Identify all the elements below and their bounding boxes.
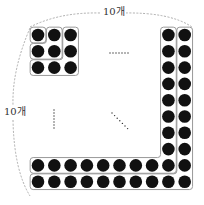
dot xyxy=(64,159,77,172)
left-dashed-arc xyxy=(13,28,30,105)
dot xyxy=(32,159,45,172)
dot xyxy=(162,110,175,123)
dot xyxy=(178,29,191,42)
dot xyxy=(130,159,143,172)
dot xyxy=(178,143,191,156)
dot xyxy=(81,159,94,172)
dot xyxy=(113,159,126,172)
dot xyxy=(113,175,126,188)
dot xyxy=(81,175,94,188)
dot xyxy=(162,45,175,58)
left-count-label: 10개 xyxy=(3,106,27,117)
dot xyxy=(162,159,175,172)
dot xyxy=(97,175,110,188)
dot xyxy=(162,61,175,74)
top-dashed-arc xyxy=(30,13,100,27)
dot xyxy=(146,159,159,172)
vertical-ellipsis xyxy=(53,109,54,128)
dot xyxy=(48,61,61,74)
dot xyxy=(48,29,61,42)
dot xyxy=(32,175,45,188)
dot xyxy=(162,78,175,91)
dot xyxy=(130,175,143,188)
dot xyxy=(97,159,110,172)
top-dashed-arc-right xyxy=(122,13,192,27)
dot xyxy=(178,127,191,140)
dot xyxy=(178,175,191,188)
dot xyxy=(64,175,77,188)
dot xyxy=(32,45,45,58)
dot xyxy=(32,29,45,42)
left-dashed-arc-bottom xyxy=(13,120,30,196)
dot xyxy=(48,45,61,58)
dot xyxy=(162,29,175,42)
dot xyxy=(48,159,61,172)
dot xyxy=(32,61,45,74)
dot xyxy=(64,29,77,42)
dot xyxy=(64,45,77,58)
top-count-label: 10개 xyxy=(102,6,126,17)
dot xyxy=(178,110,191,123)
diagonal-ellipsis xyxy=(111,112,128,129)
dot xyxy=(178,61,191,74)
dot xyxy=(48,175,61,188)
dot xyxy=(146,175,159,188)
dot xyxy=(162,143,175,156)
dot xyxy=(162,94,175,107)
dot xyxy=(162,127,175,140)
dot xyxy=(178,78,191,91)
horizontal-ellipsis xyxy=(109,52,128,53)
dot xyxy=(162,175,175,188)
dot xyxy=(178,45,191,58)
dot xyxy=(178,159,191,172)
dot xyxy=(178,94,191,107)
diagram-canvas xyxy=(0,0,204,205)
dot xyxy=(64,61,77,74)
